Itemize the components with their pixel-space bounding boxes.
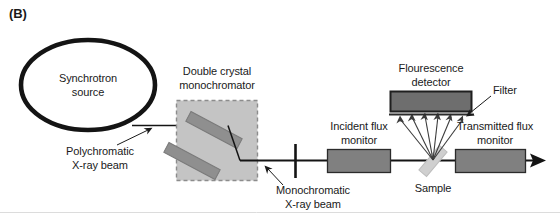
fluorescence-detector-label-line1: Flourescence (381, 62, 481, 75)
monochromatic-beam-label-line2: X-ray beam (258, 198, 368, 211)
incident-flux-monitor-label-line1: Incident flux (312, 120, 406, 133)
monochromator-label-line2: monochromator (167, 79, 267, 92)
polychromatic-beam-label-line1: Polychromatic (44, 145, 156, 158)
monochromatic-leader (265, 166, 284, 186)
monochromatic-beam-label-line1: Monochromatic (258, 184, 368, 197)
synchrotron-source-ellipse (21, 40, 155, 130)
incident-flux-monitor-label-line2: monitor (312, 134, 406, 147)
transmitted-flux-monitor-label-line2: monitor (444, 134, 546, 147)
fluorescence-detector-box (391, 92, 472, 112)
polychromatic-leader (117, 128, 153, 145)
transmitted-flux-monitor-label-line1: Transmitted flux (444, 120, 546, 133)
monochromator-label-line1: Double crystal (167, 65, 267, 78)
beamline-diagram-figure: (B) Synchrotron source Double crystal mo… (0, 0, 560, 218)
polychromatic-beam-label-line2: X-ray beam (44, 159, 156, 172)
panel-label: (B) (9, 7, 49, 20)
incident-flux-monitor-box (328, 150, 391, 173)
sample-label: Sample (400, 182, 466, 195)
synchrotron-source-label-line2: source (38, 86, 138, 99)
filter-label: Filter (493, 84, 553, 97)
transmitted-flux-monitor-box (456, 150, 526, 173)
fluorescence-detector-label-line2: detector (381, 76, 481, 89)
synchrotron-source-label-line1: Synchrotron (38, 72, 138, 85)
